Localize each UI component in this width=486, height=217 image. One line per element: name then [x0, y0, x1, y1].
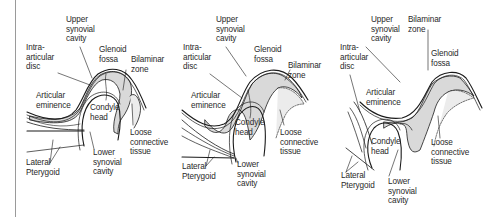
label-intra-articular-disc: Intra-articulardisc: [26, 43, 54, 72]
label-upper-synovial-cavity: Uppersynovialcavity: [66, 15, 95, 44]
label-articular-eminence: Articulareminence: [191, 91, 226, 110]
panel-1-loose-connective-tissue: [130, 94, 141, 128]
label-glenoid-fossa: Glenoidfossa: [431, 49, 459, 68]
label-bilaminar-zone: Bilaminarzone: [131, 55, 164, 74]
panel-1-lateral-pterygoid: [27, 122, 84, 130]
label-glenoid-fossa: Glenoidfossa: [254, 45, 282, 64]
label-lateral-pterygoid: LateralPterygoid: [26, 158, 60, 177]
label-intra-articular-disc: Intra-articulardisc: [183, 43, 211, 72]
label-loose-connective-tissue: Looseconnectivetissue: [280, 128, 318, 157]
label-bilaminar-zone: Bilaminarzone: [288, 61, 321, 80]
label-lower-synovial-cavity: Lowersynovialcavity: [388, 177, 417, 206]
label-intra-articular-disc: Intra-articulardisc: [340, 43, 368, 72]
label-condyle-head: Condylehead: [235, 118, 264, 137]
label-articular-eminence: Articulareminence: [366, 88, 401, 107]
figure-page: Uppersynovialcavity Glenoidfossa Bilamin…: [0, 0, 486, 217]
label-glenoid-fossa: Glenoidfossa: [99, 45, 127, 64]
label-lower-synovial-cavity: Lowersynovialcavity: [93, 148, 122, 177]
label-condyle-head: Condylehead: [371, 137, 400, 156]
label-lateral-pterygoid: LateralPterygoid: [341, 171, 375, 190]
label-upper-synovial-cavity: Uppersynovialcavity: [216, 15, 245, 44]
label-bilaminar-zone: Bilaminarzone: [408, 15, 441, 34]
label-condyle-head: Condylehead: [90, 103, 119, 122]
label-lower-synovial-cavity: Lowersynovialcavity: [237, 160, 266, 189]
label-loose-connective-tissue: Looseconnectivetissue: [130, 128, 168, 157]
label-loose-connective-tissue: Looseconnectivetissue: [431, 138, 469, 167]
label-upper-synovial-cavity: Uppersynovialcavity: [371, 15, 400, 44]
label-articular-eminence: Articulareminence: [36, 91, 71, 110]
label-lateral-pterygoid: LateralPterygoid: [182, 162, 216, 181]
